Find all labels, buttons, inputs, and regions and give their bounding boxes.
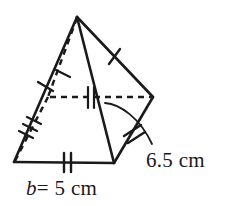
base-dimension-label: b= 5 cm: [26, 176, 97, 201]
slant-value: 6.5: [146, 148, 173, 172]
pyramid-figure: b= 5 cm 6.5 cm: [0, 0, 225, 206]
slant-height-dimension-label: 6.5 cm: [146, 148, 205, 173]
tick-base-right-1: [124, 125, 141, 136]
edge-apex-to-front-left: [14, 17, 77, 162]
edge-apex-to-front-right: [77, 17, 114, 163]
base-equals-sign: =: [37, 176, 49, 200]
base-value: 5: [55, 176, 66, 200]
base-variable: b: [26, 176, 37, 200]
tick-hidden-apex-edge: [56, 70, 70, 77]
slant-unit: cm: [179, 148, 205, 172]
base-unit: cm: [71, 176, 97, 200]
